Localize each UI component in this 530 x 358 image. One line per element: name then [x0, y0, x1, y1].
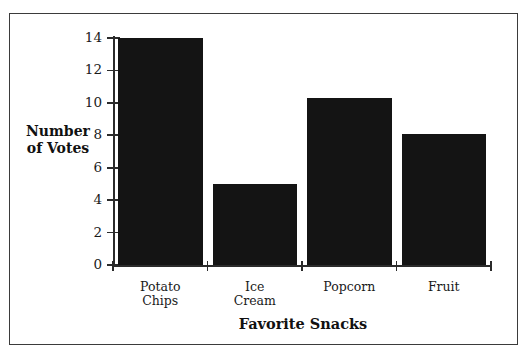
- x-axis-tick: [301, 261, 303, 271]
- y-axis-tick-label-text: 14: [72, 31, 102, 45]
- bar: [213, 184, 298, 265]
- x-axis-category-label-line: Chips: [113, 294, 208, 308]
- x-axis-tick: [207, 261, 209, 271]
- y-axis-tick-label: 14: [68, 31, 102, 45]
- y-axis-tick-label-text: 2: [72, 226, 102, 240]
- bar: [118, 38, 203, 265]
- x-axis-end-cap: [490, 261, 492, 271]
- x-axis-tick: [396, 261, 398, 271]
- y-axis-tick-label-text: 6: [72, 161, 102, 175]
- x-axis-category-label: Popcorn: [302, 280, 397, 294]
- y-axis-title-line-2: of Votes: [14, 140, 102, 157]
- y-axis-tick-label: 10: [68, 96, 102, 110]
- y-axis-tick-label: 0: [68, 258, 102, 272]
- x-axis-category-label: Fruit: [397, 280, 492, 294]
- y-axis-tick-label: 2: [68, 226, 102, 240]
- y-axis-tick-label-text: 10: [72, 96, 102, 110]
- x-axis-category-label-line: Ice: [208, 280, 303, 294]
- y-axis-tick-label-text: 12: [72, 63, 102, 77]
- x-axis-category-label-line: Popcorn: [302, 280, 397, 294]
- x-axis-title: Favorite Snacks: [113, 315, 493, 332]
- x-axis-category-label: PotatoChips: [113, 280, 208, 308]
- bar: [402, 134, 487, 265]
- y-axis-tick-label: 6: [68, 161, 102, 175]
- y-axis-tick-label: 8: [68, 128, 102, 142]
- x-axis-category-label: IceCream: [208, 280, 303, 308]
- x-axis-category-label-line: Cream: [208, 294, 303, 308]
- y-axis-tick-label-text: 8: [72, 128, 102, 142]
- bar: [307, 98, 392, 265]
- y-axis-tick-label-text: 0: [72, 258, 102, 272]
- y-axis-tick-label-text: 4: [72, 193, 102, 207]
- x-axis-category-label-line: Fruit: [397, 280, 492, 294]
- x-axis-category-label-line: Potato: [113, 280, 208, 294]
- y-axis-tick-label: 12: [68, 63, 102, 77]
- x-axis-end-cap: [112, 261, 114, 271]
- y-axis-tick-label: 4: [68, 193, 102, 207]
- bar-chart-figure: Number of Votes 02468101214 PotatoChipsI…: [0, 0, 530, 358]
